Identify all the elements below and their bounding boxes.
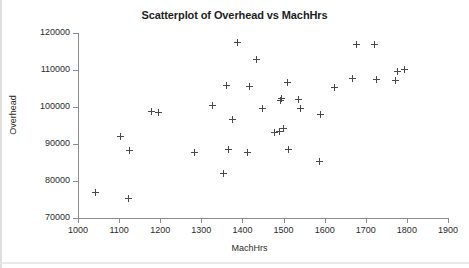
x-tick-label-1600: 1600 [305, 225, 345, 235]
x-tick-1200 [160, 218, 161, 223]
x-tick-1800 [407, 218, 408, 223]
data-point [401, 66, 408, 73]
x-tick-label-1700: 1700 [346, 225, 386, 235]
x-tick-1100 [119, 218, 120, 223]
data-point [223, 82, 230, 89]
data-point [349, 75, 356, 82]
data-point [353, 41, 360, 48]
data-point [317, 111, 324, 118]
x-tick-1000 [78, 218, 79, 223]
chart-title: Scatterplot of Overhead vs MachHrs [0, 9, 469, 21]
data-point [191, 149, 198, 156]
x-axis-label: MachHrs [0, 243, 469, 253]
x-tick-label-1100: 1100 [99, 225, 139, 235]
scatterplot-figure: Scatterplot of Overhead vs MachHrs 70000… [0, 0, 469, 268]
x-tick-label-1800: 1800 [387, 225, 427, 235]
y-tick-label-70000: 70000 [8, 212, 70, 222]
y-axis-label: Overhead [8, 85, 18, 145]
data-point [117, 133, 124, 140]
x-tick-1700 [366, 218, 367, 223]
data-point [271, 129, 278, 136]
data-point [295, 96, 302, 103]
data-point [234, 39, 241, 46]
x-tick-1600 [325, 218, 326, 223]
x-tick-label-1900: 1900 [428, 225, 468, 235]
x-tick-label-1300: 1300 [181, 225, 221, 235]
x-tick-1300 [201, 218, 202, 223]
scan-edge-left [0, 0, 2, 268]
data-point [225, 146, 232, 153]
scan-edge-bottom [0, 262, 469, 264]
plot-area [78, 33, 448, 218]
data-point [331, 84, 338, 91]
y-tick-label-120000: 120000 [8, 27, 70, 37]
data-point [371, 41, 378, 48]
x-tick-label-1200: 1200 [140, 225, 180, 235]
data-point [373, 76, 380, 83]
x-tick-1400 [242, 218, 243, 223]
data-point [92, 189, 99, 196]
data-point [392, 77, 399, 84]
y-tick-label-80000: 80000 [8, 175, 70, 185]
data-point [155, 109, 162, 116]
data-point [316, 158, 323, 165]
data-point [284, 79, 291, 86]
data-point [148, 108, 155, 115]
data-point [246, 83, 253, 90]
data-point [244, 149, 251, 156]
x-axis-line [78, 218, 449, 219]
data-point [276, 128, 283, 135]
data-point [277, 97, 284, 104]
x-tick-1900 [448, 218, 449, 223]
data-point [126, 147, 133, 154]
data-point [209, 102, 216, 109]
x-tick-label-1000: 1000 [58, 225, 98, 235]
data-point [394, 68, 401, 75]
data-point [297, 105, 304, 112]
data-point [280, 125, 287, 132]
data-point [229, 116, 236, 123]
data-point [220, 170, 227, 177]
x-tick-label-1400: 1400 [222, 225, 262, 235]
data-point [125, 195, 132, 202]
x-tick-1500 [284, 218, 285, 223]
x-tick-label-1500: 1500 [264, 225, 304, 235]
y-tick-label-110000: 110000 [8, 64, 70, 74]
data-point [259, 105, 266, 112]
data-point [278, 95, 285, 102]
data-point [253, 56, 260, 63]
data-point [285, 146, 292, 153]
